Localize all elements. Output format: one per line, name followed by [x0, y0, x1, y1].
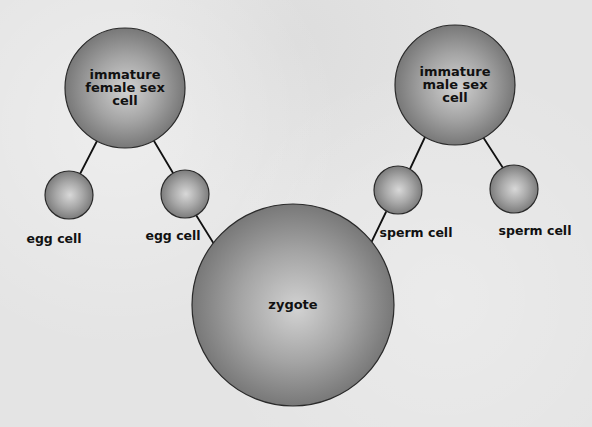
cell-label: zygote: [268, 297, 317, 312]
cell-label: egg cell: [145, 228, 200, 243]
cell-egg2: egg cell: [145, 170, 209, 243]
cell-label: sperm cell: [380, 225, 453, 240]
cell-sperm2: sperm cell: [490, 165, 571, 238]
cell-label: sperm cell: [499, 223, 572, 238]
cells: immaturefemale sexcellimmaturemale sexce…: [26, 25, 571, 406]
cell-zygote: zygote: [192, 204, 394, 406]
connector-immature_male-to-sperm2: [483, 137, 503, 168]
cell-circle: [45, 171, 93, 219]
connector-immature_female-to-egg2: [154, 141, 173, 173]
cell-sperm1: sperm cell: [374, 166, 452, 240]
fertilization-diagram: immaturefemale sexcellimmaturemale sexce…: [0, 0, 592, 427]
cell-circle: [490, 165, 538, 213]
cell-immature-female: immaturefemale sexcell: [65, 28, 185, 148]
cell-circle: [161, 170, 209, 218]
cell-egg1: egg cell: [26, 171, 93, 246]
cell-immature-male: immaturemale sexcell: [395, 25, 515, 145]
cell-label: egg cell: [26, 231, 81, 246]
cell-circle: [374, 166, 422, 214]
connector-immature_female-to-egg1: [80, 141, 97, 174]
connector-immature_male-to-sperm1: [410, 137, 425, 169]
